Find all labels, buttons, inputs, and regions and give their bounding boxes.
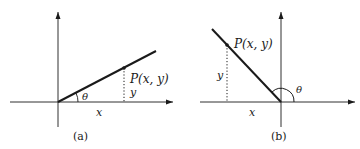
panel-a: θ P(x, y) y x (a) <box>10 12 173 143</box>
angle-label: θ <box>296 84 302 95</box>
point-p <box>122 66 126 70</box>
x-label: x <box>249 106 256 119</box>
point-label: P(x, y) <box>129 72 169 86</box>
panel-b: θ P(x, y) y x (b) <box>200 12 355 143</box>
caption: (a) <box>73 130 88 143</box>
y-label: y <box>129 86 137 99</box>
caption: (b) <box>271 130 287 143</box>
angle-label: θ <box>82 91 88 102</box>
y-label: y <box>216 69 224 82</box>
point-label: P(x, y) <box>233 37 273 51</box>
trig-angle-diagram: θ P(x, y) y x (a) θ P(x, y) y x (b) <box>0 0 360 149</box>
point-p <box>225 43 229 47</box>
angle-arc <box>76 93 78 102</box>
x-label: x <box>96 106 103 119</box>
